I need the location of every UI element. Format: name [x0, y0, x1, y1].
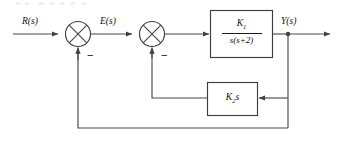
plant-numerator: K1 — [214, 19, 269, 30]
input-signal-label: R(s) — [22, 17, 38, 27]
fraction-bar — [222, 33, 262, 34]
plant-transfer-function: K1 s(s+2) — [214, 19, 269, 45]
rate-feedback-gain-label: K2s — [211, 93, 254, 104]
block-diagram-canvas: R(s) E(s) Y(s) − − K1 s(s+2) K2s — [0, 0, 337, 146]
plant-denominator: s(s+2) — [214, 36, 269, 45]
summing-junction-2-minus-sign: − — [161, 50, 167, 61]
summing-junction-1-minus-sign: − — [87, 50, 93, 61]
output-signal-label: Y(s) — [281, 17, 296, 27]
error-signal-label: E(s) — [100, 17, 116, 27]
